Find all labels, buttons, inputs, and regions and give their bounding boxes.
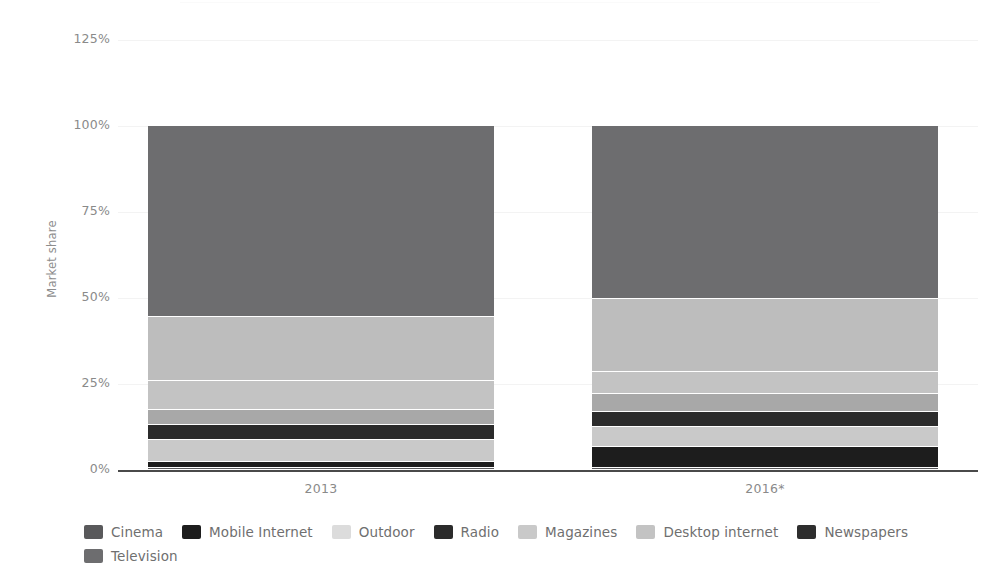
bar-segment-mobile-internet[interactable] xyxy=(592,447,938,468)
stacked-bar-chart: 125%100%75%50%25%0% Market share 2013201… xyxy=(0,0,989,583)
legend-item-desktop-internet[interactable]: Desktop internet xyxy=(636,524,778,540)
legend-label: Desktop internet xyxy=(663,524,778,540)
bar-segment-radio[interactable] xyxy=(592,412,938,427)
legend-label: Mobile Internet xyxy=(209,524,313,540)
legend-swatch-icon xyxy=(332,525,351,539)
bar-segment-newspapers[interactable] xyxy=(148,317,494,381)
legend-label: Outdoor xyxy=(359,524,415,540)
y-axis-tick-label: 0% xyxy=(38,463,110,476)
bar-segment-mobile-internet[interactable] xyxy=(148,462,494,468)
legend-swatch-icon xyxy=(518,525,537,539)
bar-segment-television[interactable] xyxy=(148,126,494,317)
legend-swatch-icon xyxy=(797,525,816,539)
legend-swatch-icon xyxy=(84,549,103,563)
bar-segment-magazines[interactable] xyxy=(592,394,938,412)
bar-segment-outdoor[interactable] xyxy=(148,440,494,462)
legend-item-radio[interactable]: Radio xyxy=(434,524,499,540)
x-axis-tick-label: 2013 xyxy=(148,481,494,496)
y-axis-tick-label: 100% xyxy=(38,119,110,132)
bar-segment-cinema[interactable] xyxy=(148,468,494,470)
legend-swatch-icon xyxy=(182,525,201,539)
legend-item-magazines[interactable]: Magazines xyxy=(518,524,617,540)
bar-segment-cinema[interactable] xyxy=(592,468,938,470)
bar-segment-desktop-internet[interactable] xyxy=(148,381,494,410)
bar-segment-television[interactable] xyxy=(592,126,938,299)
bar-segment-radio[interactable] xyxy=(148,425,494,440)
bar-2013[interactable] xyxy=(148,126,494,470)
y-axis-tick-label: 125% xyxy=(38,33,110,46)
chart-legend: CinemaMobile InternetOutdoorRadioMagazin… xyxy=(84,524,964,572)
legend-swatch-icon xyxy=(84,525,103,539)
y-axis-label: Market share xyxy=(45,199,59,319)
legend-label: Television xyxy=(111,548,178,564)
gridline xyxy=(118,40,978,41)
x-axis-baseline xyxy=(118,470,978,472)
bar-segment-desktop-internet[interactable] xyxy=(592,372,938,394)
legend-label: Newspapers xyxy=(824,524,908,540)
plot-area: 125%100%75%50%25%0% Market share 2013201… xyxy=(0,0,989,500)
y-axis-tick-label: 25% xyxy=(38,377,110,390)
legend-label: Cinema xyxy=(111,524,163,540)
legend-item-mobile-internet[interactable]: Mobile Internet xyxy=(182,524,313,540)
legend-item-cinema[interactable]: Cinema xyxy=(84,524,163,540)
legend-item-outdoor[interactable]: Outdoor xyxy=(332,524,415,540)
bar-segment-newspapers[interactable] xyxy=(592,299,938,372)
bar-2016[interactable] xyxy=(592,126,938,470)
legend-label: Radio xyxy=(461,524,499,540)
bar-segment-magazines[interactable] xyxy=(148,410,494,425)
bar-segment-outdoor[interactable] xyxy=(592,427,938,447)
x-axis-tick-label: 2016* xyxy=(592,481,938,496)
legend-item-newspapers[interactable]: Newspapers xyxy=(797,524,908,540)
legend-swatch-icon xyxy=(434,525,453,539)
legend-label: Magazines xyxy=(545,524,617,540)
legend-swatch-icon xyxy=(636,525,655,539)
legend-item-television[interactable]: Television xyxy=(84,548,178,564)
